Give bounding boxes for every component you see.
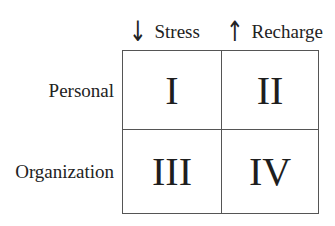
quadrant-iv: IV — [222, 130, 318, 213]
arrow-down-icon: ↓ — [129, 18, 147, 46]
quadrant-iii: III — [123, 130, 221, 213]
column-label-stress: Stress — [154, 21, 199, 46]
arrow-up-icon: ↑ — [226, 18, 244, 46]
row-label-organization: Organization — [15, 161, 114, 183]
quadrant-grid: I II III IV — [122, 50, 319, 214]
column-header-recharge: ↑ Recharge — [223, 14, 323, 46]
quadrant-i: I — [123, 51, 221, 129]
column-header-stress: ↓ Stress — [126, 14, 200, 46]
column-label-recharge: Recharge — [251, 21, 322, 46]
row-label-personal: Personal — [49, 80, 114, 102]
quadrant-ii: II — [222, 51, 318, 129]
